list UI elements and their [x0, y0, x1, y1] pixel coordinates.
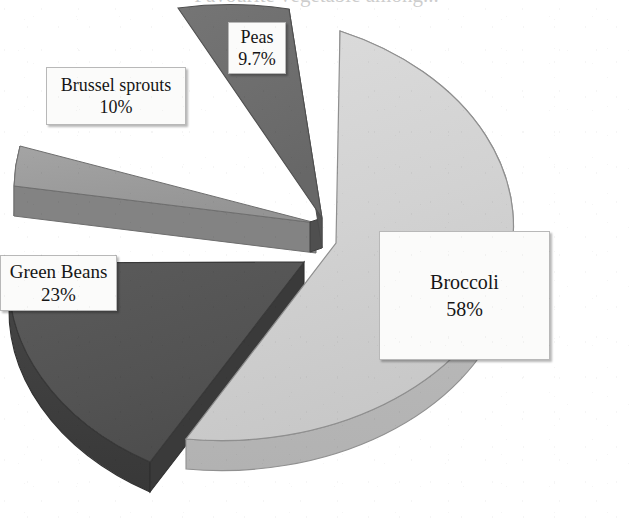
pie-slice-brussel-sprouts[interactable] [14, 146, 316, 253]
pie-label-peas-name: Peas [241, 27, 274, 47]
pie-label-broccoli-name: Broccoli [430, 271, 499, 293]
pie-label-brussel-sprouts-name: Brussel sprouts [61, 75, 172, 95]
pie-label-brussel-sprouts[interactable]: Brussel sprouts 10% [46, 67, 186, 125]
pie-label-green-beans[interactable]: Green Beans 23% [0, 255, 117, 311]
pie-label-peas[interactable]: Peas 9.7% [228, 22, 286, 74]
pie-label-green-beans-percent: 23% [41, 284, 76, 305]
pie-label-broccoli-percent: 58% [446, 298, 483, 320]
pie-label-green-beans-name: Green Beans [10, 261, 108, 282]
pie-label-brussel-sprouts-percent: 10% [100, 97, 133, 117]
pie-label-broccoli[interactable]: Broccoli 58% [379, 231, 550, 360]
pie-chart-figure: Favourite vegetable among... [0, 0, 633, 518]
pie-label-peas-percent: 9.7% [238, 49, 276, 69]
